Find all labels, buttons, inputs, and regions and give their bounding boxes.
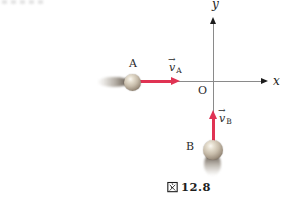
scan-edge-artifact bbox=[2, 0, 44, 4]
x-axis-line bbox=[177, 81, 263, 82]
velocity-B-label: →vB bbox=[219, 113, 232, 126]
ball-A bbox=[124, 74, 141, 91]
velocity-A-arrow-shaft bbox=[136, 80, 172, 83]
figure-caption-number: 12.8 bbox=[181, 180, 211, 194]
y-axis-arrowhead-icon bbox=[210, 17, 216, 24]
velocity-B-arrowhead-icon bbox=[209, 110, 217, 119]
figure-caption: 12.8 bbox=[167, 180, 211, 194]
ball-B bbox=[203, 140, 223, 160]
velocity-A-subscript: A bbox=[176, 66, 181, 75]
y-axis-label: y bbox=[212, 0, 219, 11]
y-axis-line bbox=[213, 23, 214, 113]
ball-B-label: B bbox=[186, 141, 194, 153]
velocity-A-label: →vA bbox=[169, 62, 182, 75]
vector-overarrow-icon: → bbox=[218, 106, 225, 115]
x-axis-label: x bbox=[273, 75, 280, 88]
x-axis-arrowhead-icon bbox=[261, 78, 268, 84]
physics-figure-12-8: x y O A →vA B →vB 12.8 bbox=[0, 0, 287, 198]
velocity-A-arrowhead-icon bbox=[171, 77, 180, 85]
kanji-zu-icon bbox=[167, 181, 178, 193]
velocity-B-subscript: B bbox=[226, 117, 232, 126]
ball-A-label: A bbox=[129, 58, 137, 70]
origin-label: O bbox=[198, 85, 207, 97]
vector-overarrow-icon: → bbox=[168, 55, 175, 64]
